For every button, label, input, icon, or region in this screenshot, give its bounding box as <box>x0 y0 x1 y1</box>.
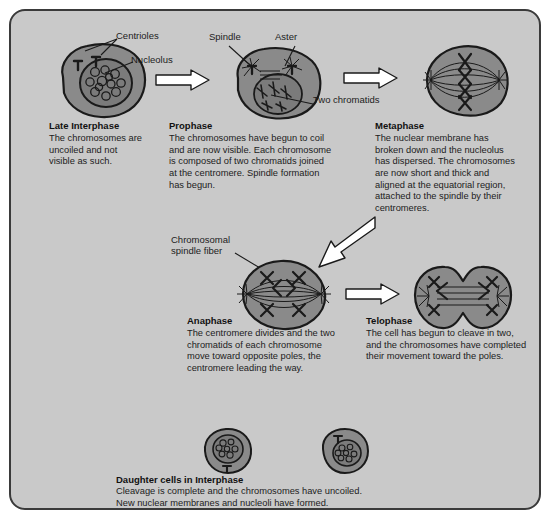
leader-aster <box>283 44 297 68</box>
stage-title-late-interphase: Late Interphase <box>49 121 179 132</box>
leader-two-chromatids <box>269 93 315 109</box>
stage-late-interphase: Late Interphase The chromosomes are unco… <box>49 121 179 168</box>
stage-title-metaphase: Metaphase <box>375 121 530 132</box>
stage-body-telophase: The cell has begun to cleave in two, and… <box>366 328 541 363</box>
stage-body-anaphase: The centromere divides and the two chrom… <box>187 328 357 375</box>
mitosis-diagram-panel: Centrioles Nucleolus <box>9 9 541 510</box>
callout-nucleolus: Nucleolus <box>131 55 173 65</box>
arrow-prophase-to-metaphase <box>343 67 399 89</box>
daughter-cells-block: Daughter cells in Interphase Cleavage is… <box>116 474 446 509</box>
stage-telophase: Telophase The cell has begun to cleave i… <box>366 316 541 363</box>
stage-body-metaphase: The nuclear membrane has broken down and… <box>375 133 530 215</box>
stage-metaphase: Metaphase The nuclear membrane has broke… <box>375 121 530 215</box>
callout-centrioles: Centrioles <box>116 31 159 41</box>
daughter-cells-title: Daughter cells in Interphase <box>116 474 446 485</box>
leader-spindle <box>227 44 253 68</box>
cell-metaphase <box>415 40 515 120</box>
stage-title-anaphase: Anaphase <box>187 316 357 327</box>
stage-prophase: Prophase The chromosomes have begun to c… <box>169 121 341 191</box>
leader-nucleolus <box>99 59 135 77</box>
callout-chromosomal-spindle-fiber-line1: Chromosomal <box>171 235 230 245</box>
stage-body-prophase: The chromosomes have begun to coil and a… <box>169 133 341 192</box>
callout-two-chromatids: Two chromatids <box>313 95 380 105</box>
callout-chromosomal-spindle-fiber-line2: spindle fiber <box>171 246 222 256</box>
stage-anaphase: Anaphase The centromere divides and the … <box>187 316 357 375</box>
stage-title-prophase: Prophase <box>169 121 341 132</box>
arrow-anaphase-to-telophase <box>345 283 401 305</box>
cell-daughter-right <box>316 425 374 479</box>
daughter-cells-body: Cleavage is complete and the chromosomes… <box>116 486 446 509</box>
callout-spindle: Spindle <box>209 32 241 42</box>
cell-daughter-left <box>199 425 257 479</box>
stage-body-late-interphase: The chromosomes are uncoiled and not vis… <box>49 133 179 168</box>
stage-title-telophase: Telophase <box>366 316 541 327</box>
arrow-interphase-to-prophase <box>155 69 211 91</box>
callout-aster: Aster <box>275 32 297 42</box>
